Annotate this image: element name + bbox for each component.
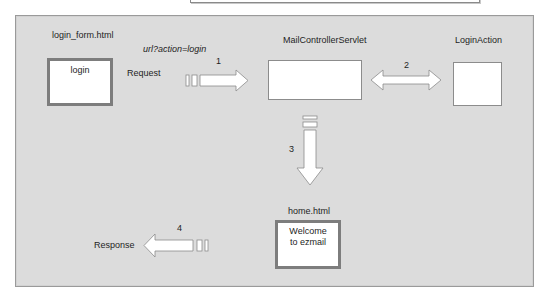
controller-title: MailControllerServlet — [283, 35, 367, 45]
request-arrow-icon — [185, 69, 251, 93]
home-box: Welcome to ezmail — [275, 220, 341, 269]
response-label: Response — [94, 240, 135, 250]
step-3-label: 3 — [289, 144, 294, 154]
login-form-box: login — [47, 58, 113, 106]
home-content-line1: Welcome — [278, 226, 338, 237]
login-action-box — [453, 62, 502, 106]
login-action-title: LoginAction — [455, 35, 502, 45]
login-form-title: login_form.html — [52, 30, 114, 40]
controller-box — [268, 60, 362, 100]
bidirectional-arrow-icon — [370, 69, 444, 91]
top-frame-edge — [190, 0, 480, 3]
home-content-line2: to ezmail — [278, 237, 338, 248]
forward-arrow-icon — [298, 115, 326, 187]
request-label: Request — [127, 68, 161, 78]
response-arrow-icon — [143, 233, 211, 259]
url-label: url?action=login — [143, 44, 206, 54]
login-form-content: login — [50, 61, 110, 76]
step-4-label: 4 — [177, 223, 182, 233]
step-1-label: 1 — [216, 56, 221, 66]
home-title: home.html — [288, 206, 330, 216]
